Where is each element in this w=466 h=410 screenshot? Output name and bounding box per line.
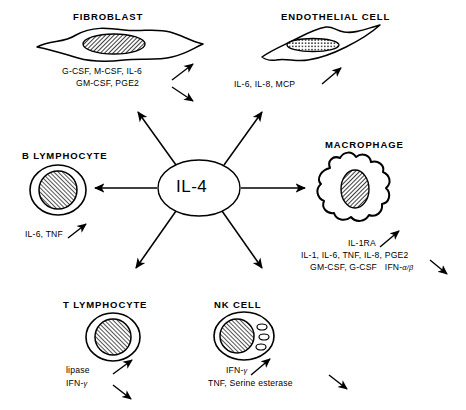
blymphocyte-cell — [30, 165, 86, 215]
fibroblast-products-line2: GM-CSF, PGE2 — [76, 78, 139, 90]
endothelial-cell-shape — [262, 25, 380, 61]
fibroblast-nucleus — [83, 34, 145, 54]
blymphocyte-products-line1: IL-6, TNF — [25, 229, 63, 241]
hub-label-il4: IL-4 — [176, 177, 207, 197]
endothelial-nucleus — [287, 39, 339, 52]
endothelial-product-arrows — [322, 68, 341, 84]
nk-line1-gamma: γ — [244, 366, 248, 375]
nkcell-products-line1: IFN-γ — [226, 365, 247, 377]
macrophage-cell — [317, 153, 389, 221]
fibroblast-title: FIBROBLAST — [73, 11, 143, 22]
arrow-to-fibroblast — [138, 112, 176, 165]
macrophage-line3-part1: GM-CSF, G-CSF — [310, 262, 377, 272]
fibroblast-products-line1: G-CSF, M-CSF, IL-6 — [62, 66, 142, 78]
fibroblast-cell — [37, 28, 203, 61]
tlymphocyte-title: T LYMPHOCYTE — [63, 299, 147, 310]
endothelial-products-line1: IL-6, IL-8, MCP — [234, 79, 295, 91]
blymphocyte-product-arrows — [68, 224, 86, 238]
tlymph-line2-gamma: γ — [84, 379, 88, 388]
fibroblast-product-arrows — [172, 64, 193, 101]
nkcell-title: NK CELL — [214, 299, 261, 310]
macrophage-nucleus — [341, 170, 369, 208]
blymphocyte-title: B LYMPHOCYTE — [22, 150, 107, 161]
arrow-to-endothelial — [224, 112, 262, 165]
nkcell-products-line2: TNF, Serine esterase — [208, 378, 293, 390]
tlymph-line2-part1: IFN- — [66, 378, 84, 388]
arrow-to-tlymphocyte — [136, 211, 176, 268]
nk-line1-part1: IFN- — [226, 365, 244, 375]
tlymphocyte-cell — [86, 313, 140, 361]
macrophage-line3-alphabeta: α/β — [402, 263, 413, 272]
nkcell-nucleus — [220, 319, 254, 353]
tlymphocyte-product-arrows — [113, 360, 132, 399]
macrophage-products-line3: GM-CSF, G-CSF IFN-α/β — [310, 262, 413, 274]
macrophage-line3-part2: IFN- — [385, 262, 403, 272]
endothelial-title: ENDOTHELIAL CELL — [281, 11, 390, 22]
nkcell-cell — [214, 312, 274, 360]
macrophage-products-line1: IL-1RA — [348, 238, 376, 250]
arrow-to-nkcell — [222, 211, 262, 268]
tlymphocyte-products-line2: IFN-γ — [66, 378, 87, 390]
diagram-canvas: IL-4 FIBROBLAST G-CSF, M-CSF, IL-6 GM-CS… — [0, 0, 466, 410]
macrophage-products-line2: IL-1, IL-6, TNF, IL-8, PGE2 — [301, 250, 408, 262]
blymphocyte-nucleus — [39, 171, 77, 209]
tlymphocyte-products-line1: lipase — [66, 365, 90, 377]
macrophage-title: MACROPHAGE — [325, 139, 404, 150]
tlymphocyte-nucleus — [95, 319, 131, 355]
diagram-artwork — [0, 0, 466, 410]
